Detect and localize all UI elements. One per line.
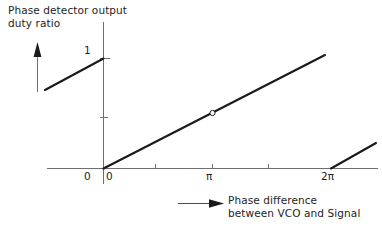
x-axis-arrow-icon [178, 199, 224, 208]
x-tick-label-two-pi: 2π [321, 170, 334, 183]
y-tick-label-one: 1 [84, 44, 91, 57]
y-axis-ticks [100, 59, 110, 118]
x-tick-label-zero-right: 0 [106, 170, 113, 183]
midpoint-marker-icon [210, 110, 215, 115]
x-axis-title: Phase difference between VCO and Signal [228, 194, 360, 220]
x-tick-label-zero-left: 0 [84, 170, 91, 183]
x-tick-label-pi: π [206, 170, 212, 183]
y-axis-title: Phase detector output duty ratio [8, 4, 127, 30]
y-axis-arrow-icon [34, 42, 42, 92]
curve-segment-previous-cycle [45, 59, 104, 91]
curve-segment-next-cycle [331, 143, 376, 169]
phase-detector-duty-ratio-figure: Phase detector output duty ratio 1 0 0 π… [0, 0, 382, 232]
